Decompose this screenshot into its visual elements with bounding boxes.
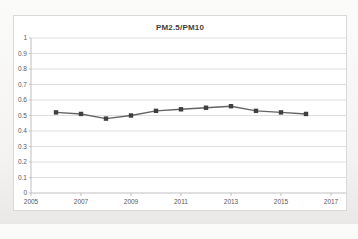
- data-point-marker: [79, 112, 83, 116]
- x-tick-label: 2017: [324, 198, 339, 205]
- y-tick-label: 0: [23, 189, 27, 196]
- x-tick-label: 2007: [74, 198, 89, 205]
- data-point-marker: [154, 109, 158, 113]
- data-point-marker: [279, 110, 283, 114]
- x-tick-label: 2013: [224, 198, 239, 205]
- y-tick-label: 0.7: [18, 81, 27, 88]
- y-tick-label: 0.4: [18, 127, 27, 134]
- data-point-marker: [304, 112, 308, 116]
- x-tick-label: 2009: [124, 198, 139, 205]
- line-chart-plot-area: 10.90.80.70.60.50.40.30.20.1020052007200…: [14, 16, 348, 212]
- data-point-marker: [129, 113, 133, 117]
- x-tick-label: 2015: [274, 198, 289, 205]
- data-point-marker: [104, 116, 108, 120]
- data-point-marker: [54, 110, 58, 114]
- x-tick-label: 2005: [24, 198, 39, 205]
- y-tick-label: 0.2: [18, 158, 27, 165]
- chart-container: PM2.5/PM10 10.90.80.70.60.50.40.30.20.10…: [13, 15, 347, 211]
- y-tick-label: 0.3: [18, 143, 27, 150]
- y-tick-label: 0.6: [18, 96, 27, 103]
- y-tick-label: 0.9: [18, 50, 27, 57]
- y-tick-label: 0.5: [18, 112, 27, 119]
- y-tick-label: 0.1: [18, 174, 27, 181]
- y-tick-label: 0.8: [18, 65, 27, 72]
- data-point-marker: [229, 104, 233, 108]
- page-background: { "chart": { "title": "PM2.5/PM10", "col…: [0, 0, 358, 224]
- x-tick-label: 2011: [174, 198, 188, 205]
- data-point-marker: [179, 107, 183, 111]
- y-tick-label: 1: [23, 34, 27, 41]
- data-point-marker: [204, 106, 208, 110]
- data-point-marker: [254, 109, 258, 113]
